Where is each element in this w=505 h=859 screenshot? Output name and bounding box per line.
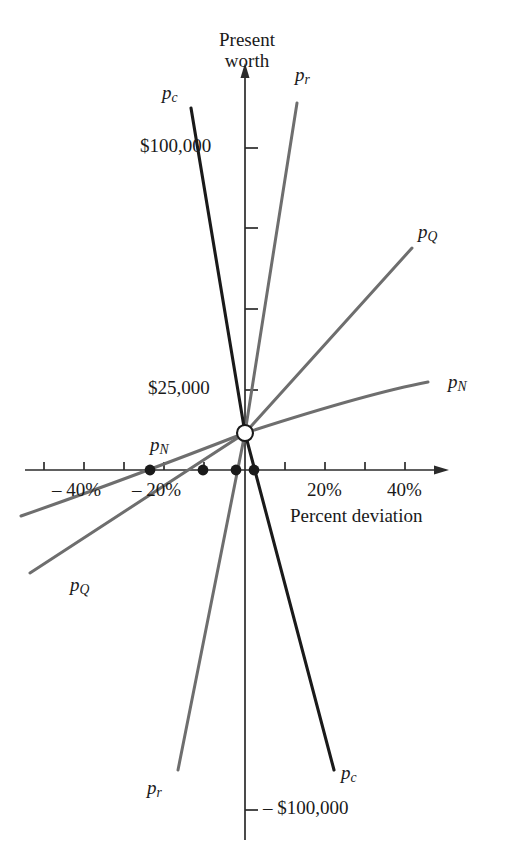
y-tick-label-100000: $100,000: [140, 136, 211, 157]
curve-label-p-N-left-base: p: [150, 434, 160, 455]
y-axis-title: Present worth: [187, 30, 307, 71]
curve-label-p-Q-right-base: p: [418, 221, 428, 242]
curve-label-p-r-top-sub: r: [305, 72, 310, 87]
curve-label-p-Q-right-sub: Q: [428, 229, 438, 244]
curve-label-p-Q-left: pQ: [70, 575, 89, 598]
x-axis-ticks: [44, 462, 405, 470]
y-tick-label-25000: $25,000: [148, 378, 210, 399]
curve-label-p-Q-left-base: p: [70, 574, 80, 595]
base-point-marker: [237, 425, 253, 441]
chart-plot-area: [0, 0, 505, 859]
curve-label-p-r-bottom: pr: [147, 778, 162, 801]
x-intercept-dot-p-c: [249, 465, 260, 476]
y-axis-title-line2: worth: [187, 51, 307, 72]
curve-label-p-c-bottom-base: p: [341, 762, 351, 783]
curve-label-p-N-right: pN: [448, 372, 467, 395]
curve-label-p-c-top: pc: [162, 83, 178, 106]
curve-label-p-N-right-sub: N: [458, 379, 467, 394]
curve-label-p-c-bottom: pc: [341, 763, 357, 786]
curves-group: [21, 103, 428, 770]
curve-p-c: [191, 108, 334, 770]
x-intercept-dot-p-Q: [198, 465, 209, 476]
x-tick-label-20: 20%: [307, 480, 342, 501]
curve-label-p-c-top-base: p: [162, 82, 172, 103]
curve-label-p-c-bottom-sub: c: [351, 770, 357, 785]
y-tick-label--100000: – $100,000: [263, 798, 349, 819]
curve-label-p-r-bottom-sub: r: [157, 785, 162, 800]
x-intercept-dot-p-N: [145, 465, 156, 476]
curve-label-p-r-top: pr: [295, 65, 310, 88]
sensitivity-analysis-chart: Present worth Percent deviation $100,000…: [0, 0, 505, 859]
x-intercept-dot-p-r: [231, 465, 242, 476]
curve-label-p-Q-left-sub: Q: [80, 582, 90, 597]
curve-label-p-r-bottom-base: p: [147, 777, 157, 798]
x-tick-label--20: – 20%: [132, 480, 181, 501]
curve-label-p-c-top-sub: c: [172, 90, 178, 105]
x-axis-arrowhead: [434, 466, 449, 475]
curve-label-p-N-left: pN: [150, 435, 169, 458]
x-axis-title: Percent deviation: [290, 506, 422, 527]
curve-label-p-r-top-base: p: [295, 64, 305, 85]
x-tick-label-40: 40%: [387, 480, 422, 501]
curve-label-p-Q-right: pQ: [418, 222, 437, 245]
curve-label-p-N-left-sub: N: [160, 442, 169, 457]
y-axis-title-line1: Present: [187, 30, 307, 51]
curve-label-p-N-right-base: p: [448, 371, 458, 392]
axes-group: [25, 63, 449, 840]
x-tick-label--40: – 40%: [52, 480, 101, 501]
